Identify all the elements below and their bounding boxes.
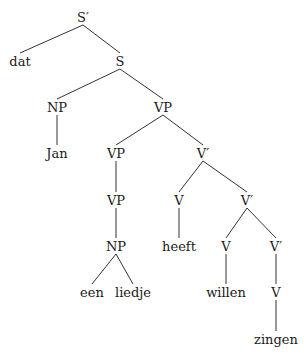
tree-edge: [226, 208, 247, 238]
tree-edge: [83, 25, 120, 53]
tree-edge: [116, 254, 133, 284]
node-vp-left: VP: [106, 146, 125, 161]
node-v-willen: V: [220, 239, 231, 254]
tree-nodes: S′ dat S NP VP Jan VP V′ VP V V′ NP heef…: [9, 10, 298, 347]
tree-edge: [203, 161, 247, 192]
node-liedje: liedje: [115, 285, 151, 300]
node-heeft: heeft: [162, 239, 197, 254]
node-s-bar: S′: [77, 10, 89, 25]
node-v-heeft: V: [173, 193, 184, 208]
node-v-bar-3: V′: [269, 239, 282, 254]
tree-edge: [120, 69, 163, 99]
tree-edge: [163, 115, 203, 145]
tree-edge: [116, 115, 163, 145]
node-jan: Jan: [44, 146, 68, 161]
node-np-object: NP: [106, 239, 126, 254]
node-vp-top: VP: [153, 100, 172, 115]
node-v-bar-2: V′: [240, 193, 253, 208]
tree-edge: [179, 161, 203, 192]
node-v-bar-1: V′: [196, 146, 209, 161]
tree-edge: [92, 254, 116, 284]
node-een: een: [80, 285, 104, 300]
tree-edge: [247, 208, 276, 238]
node-v-zingen: V: [270, 285, 281, 300]
node-willen: willen: [206, 285, 246, 300]
node-s: S: [116, 54, 125, 69]
node-dat: dat: [9, 54, 31, 69]
syntax-tree: S′ dat S NP VP Jan VP V′ VP V V′ NP heef…: [0, 0, 304, 356]
node-vp-inner: VP: [106, 193, 125, 208]
tree-edge: [57, 69, 120, 99]
node-zingen: zingen: [254, 332, 298, 347]
tree-edge: [20, 25, 83, 53]
node-np-subject: NP: [47, 100, 67, 115]
